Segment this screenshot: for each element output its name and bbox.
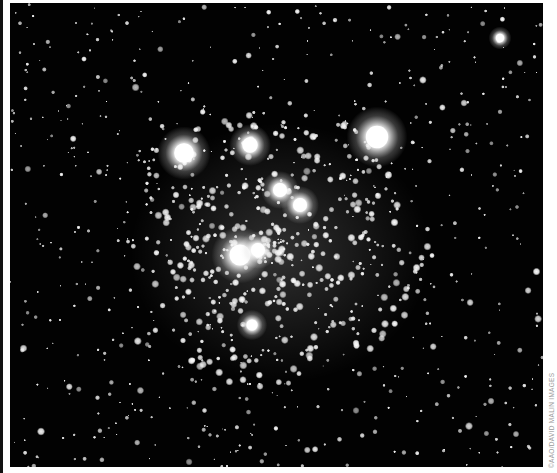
photo-credit: ©AAO/DAVID MALIN IMAGES <box>548 373 555 468</box>
left-edge-strip <box>0 0 3 473</box>
star-cluster-photo <box>10 3 543 467</box>
star-field <box>10 3 543 467</box>
